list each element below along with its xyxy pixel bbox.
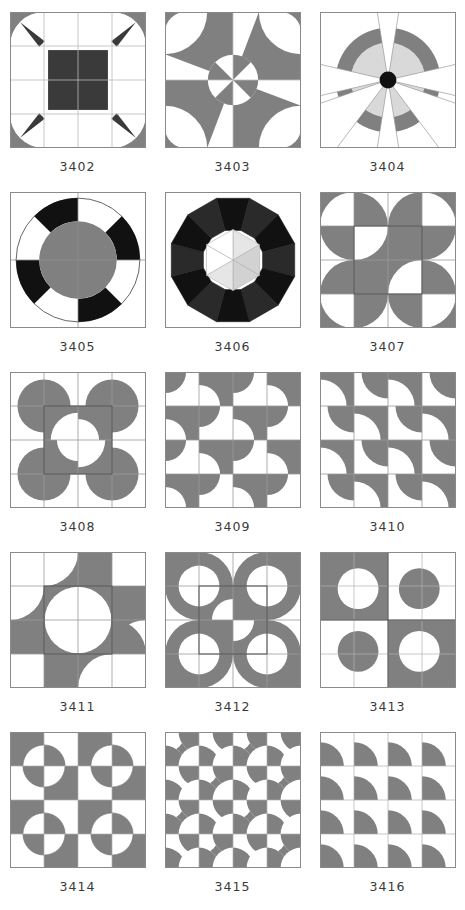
pattern-caption-3413: 3413 [310, 699, 465, 714]
pattern-tile-3408 [10, 372, 146, 508]
pattern-caption-3403: 3403 [155, 159, 310, 174]
pattern-panel-3410: 3410 [310, 372, 465, 534]
pattern-tile-3407 [320, 192, 456, 328]
pattern-panel-3411: 3411 [0, 552, 155, 714]
pattern-tile-3403 [165, 12, 301, 148]
pattern-caption-3410: 3410 [310, 519, 465, 534]
pattern-tile-3404 [320, 12, 456, 148]
pattern-panel-3414: 3414 [0, 732, 155, 894]
pattern-caption-3406: 3406 [155, 339, 310, 354]
pattern-caption-3407: 3407 [310, 339, 465, 354]
pattern-tile-3402 [10, 12, 146, 148]
pattern-caption-3409: 3409 [155, 519, 310, 534]
pattern-panel-3407: 3407 [310, 192, 465, 354]
pattern-tile-3412 [165, 552, 301, 688]
pattern-tile-3415 [165, 732, 301, 868]
pattern-caption-3402: 3402 [0, 159, 155, 174]
pattern-panel-3408: 3408 [0, 372, 155, 534]
pattern-panel-3403: 3403 [155, 12, 310, 174]
pattern-tile-3411 [10, 552, 146, 688]
pattern-caption-3404: 3404 [310, 159, 465, 174]
pattern-caption-3408: 3408 [0, 519, 155, 534]
pattern-panel-3413: 3413 [310, 552, 465, 714]
pattern-panel-3404: 3404 [310, 12, 465, 174]
pattern-panel-3405: 3405 [0, 192, 155, 354]
pattern-panel-3416: 3416 [310, 732, 465, 894]
pattern-caption-3415: 3415 [155, 879, 310, 894]
pattern-tile-3406 [165, 192, 301, 328]
pattern-caption-3412: 3412 [155, 699, 310, 714]
pattern-caption-3405: 3405 [0, 339, 155, 354]
pattern-panel-3406: 3406 [155, 192, 310, 354]
pattern-tile-3414 [10, 732, 146, 868]
pattern-tile-3416 [320, 732, 456, 868]
pattern-tile-3405 [10, 192, 146, 328]
pattern-tile-3410 [320, 372, 456, 508]
pattern-panel-3402: 3402 [0, 12, 155, 174]
pattern-tile-3413 [320, 552, 456, 688]
pattern-panel-3412: 3412 [155, 552, 310, 714]
pattern-tile-3409 [165, 372, 301, 508]
pattern-plate: 3402340334043405340634073408340934103411… [0, 0, 465, 910]
pattern-caption-3416: 3416 [310, 879, 465, 894]
pattern-panel-3415: 3415 [155, 732, 310, 894]
pattern-caption-3414: 3414 [0, 879, 155, 894]
pattern-panel-3409: 3409 [155, 372, 310, 534]
pattern-caption-3411: 3411 [0, 699, 155, 714]
